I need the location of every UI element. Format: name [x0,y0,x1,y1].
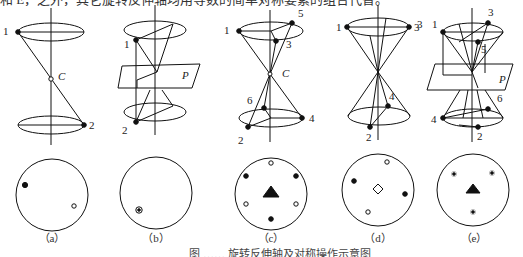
svg-text:2: 2 [122,124,128,136]
svg-text:4: 4 [309,112,315,124]
panel-label-c: （c） [251,229,291,245]
svg-text:3: 3 [286,38,292,50]
projection-c [235,158,307,230]
svg-text:C: C [58,70,66,82]
svg-text:5: 5 [481,43,487,55]
svg-text:3: 3 [488,6,494,18]
svg-text:1: 1 [432,18,438,30]
svg-text:5: 5 [298,7,304,19]
svg-text:1: 1 [336,21,342,33]
svg-text:1: 1 [3,25,9,37]
svg-text:6: 6 [247,94,253,106]
projection-e [437,154,509,226]
svg-text:P: P [181,69,189,81]
panel-a-3d: 1 2 C [3,8,95,145]
svg-text:2: 2 [477,130,483,142]
svg-text:2: 2 [89,119,95,131]
panel-b-3d: 1 2 P [118,5,200,136]
projection-a [16,159,88,231]
svg-text:3: 3 [417,18,423,30]
panel-e-3d: 3 1 3 5 P 6 4 2 [417,6,513,142]
svg-text:C: C [282,67,290,79]
figure-caption: 图 …… 旋转反伸轴及对称操作示意图 [150,247,410,257]
panel-label-e: （e） [454,229,494,245]
svg-text:1: 1 [124,38,130,50]
panel-d-3d: 1 3 4 2 [336,5,420,143]
panel-c-3d: 1 5 3 C 6 4 2 [224,7,315,146]
projection-d [342,154,414,226]
panel-label-d: （d） [358,229,398,245]
svg-text:2: 2 [238,134,244,146]
panel-label-a: （a） [32,229,72,245]
svg-text:4: 4 [431,113,437,125]
svg-text:2: 2 [366,131,372,143]
projection-b [120,157,192,229]
svg-text:4: 4 [389,90,395,102]
svg-text:6: 6 [497,92,503,104]
svg-text:P: P [498,73,506,85]
svg-text:1: 1 [224,24,230,36]
panel-label-b: （b） [136,229,176,245]
